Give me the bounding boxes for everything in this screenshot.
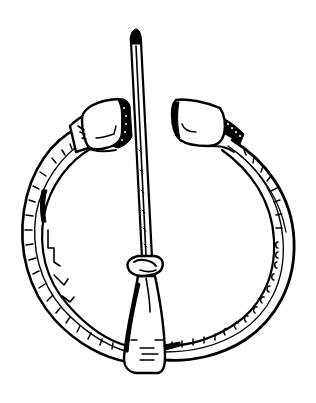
left-terminal	[70, 99, 132, 152]
pin-collar	[127, 256, 162, 276]
right-join-shade	[164, 342, 180, 350]
brooch-drawing	[0, 0, 316, 403]
brooch-illustration	[0, 0, 316, 403]
right-terminal	[172, 99, 244, 152]
pin-head	[124, 276, 165, 373]
brooch-pin	[131, 29, 152, 258]
